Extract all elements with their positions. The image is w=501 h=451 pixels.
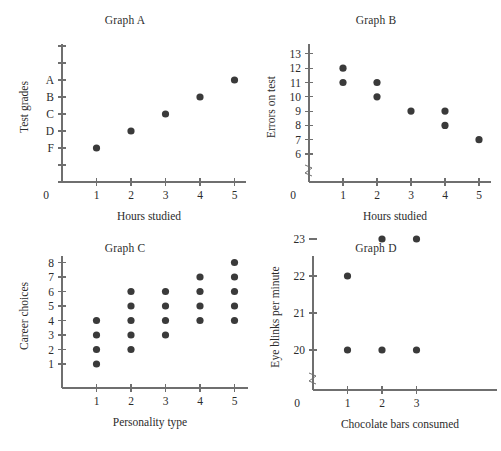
y-axis-title-graph-a: Test grades: [18, 81, 31, 133]
y-tick-label-6: 6: [295, 148, 301, 160]
data-point: [93, 317, 100, 324]
data-point: [231, 302, 238, 309]
y-tick-label-23: 23: [294, 233, 306, 245]
data-point: [93, 346, 100, 353]
data-point: [378, 346, 385, 353]
y-tick-label-5: 5: [48, 300, 54, 312]
data-point: [162, 331, 169, 338]
data-point: [162, 110, 169, 117]
x-tick-label-3: 3: [408, 189, 414, 201]
data-point: [127, 127, 134, 134]
y-tick-label-7: 7: [48, 271, 54, 283]
x-tick-label-3: 3: [163, 395, 169, 407]
x-tick-label-5: 5: [476, 189, 482, 201]
y-tick-label-21: 21: [294, 307, 306, 319]
y-tick-label-11: 11: [290, 77, 301, 89]
y-tick-label-a: A: [46, 74, 55, 86]
data-point: [413, 235, 420, 242]
data-point: [162, 302, 169, 309]
x-origin-label: 0: [43, 189, 49, 201]
data-point: [373, 93, 380, 100]
x-tick-label-2: 2: [379, 397, 385, 409]
panel-graph-c: Graph C 1234567812345Personality typeCar…: [0, 228, 250, 451]
data-point: [127, 346, 134, 353]
plot-area-graph-d: 202122231230Chocolate bars consumedEye b…: [251, 228, 501, 451]
y-tick-label-13: 13: [290, 48, 302, 60]
y-tick-label-1: 1: [48, 358, 54, 370]
data-point: [231, 76, 238, 83]
data-point: [373, 79, 380, 86]
data-point: [231, 317, 238, 324]
data-point: [93, 360, 100, 367]
data-point: [378, 235, 385, 242]
data-point: [441, 122, 448, 129]
y-tick-label-9: 9: [295, 105, 301, 117]
y-tick-label-8: 8: [295, 119, 301, 131]
plot-area-graph-a: ABCDF123450Hours studiedTest grades: [0, 0, 250, 225]
data-point: [127, 288, 134, 295]
y-axis-break-icon: [309, 373, 316, 384]
data-point: [231, 273, 238, 280]
x-tick-label-5: 5: [232, 395, 238, 407]
data-point: [475, 136, 482, 143]
data-point: [413, 346, 420, 353]
scatterplot-figure: Graph A ABCDF123450Hours studiedTest gra…: [0, 0, 501, 451]
data-point: [407, 108, 414, 115]
x-tick-label-4: 4: [197, 189, 203, 201]
data-point: [127, 302, 134, 309]
x-origin-label: 0: [290, 189, 296, 201]
y-axis-title-graph-c: Career choices: [18, 281, 30, 350]
data-point: [231, 288, 238, 295]
y-tick-label-8: 8: [48, 257, 54, 269]
panel-graph-b: Graph B 678910111213123450Hours studiedE…: [251, 0, 501, 225]
data-point: [441, 108, 448, 115]
x-tick-label-4: 4: [197, 395, 203, 407]
y-tick-label-6: 6: [48, 286, 54, 298]
x-tick-label-1: 1: [94, 189, 100, 201]
x-tick-label-2: 2: [128, 395, 134, 407]
y-tick-label-10: 10: [290, 91, 302, 103]
x-axis-title-graph-a: Hours studied: [117, 210, 181, 222]
y-tick-label-22: 22: [294, 270, 306, 282]
y-axis-title-graph-d: Eye blinks per minute: [269, 266, 282, 367]
y-tick-label-12: 12: [290, 62, 302, 74]
y-tick-label-d: D: [46, 125, 54, 137]
y-tick-label-f: F: [48, 142, 54, 154]
x-tick-label-5: 5: [232, 189, 238, 201]
x-origin-label: 0: [294, 397, 300, 409]
data-point: [93, 331, 100, 338]
x-tick-label-3: 3: [163, 189, 169, 201]
x-axis-title-graph-d: Chocolate bars consumed: [341, 418, 459, 430]
data-point: [162, 288, 169, 295]
y-tick-label-20: 20: [294, 344, 306, 356]
y-tick-label-c: C: [46, 108, 54, 120]
panel-graph-d: Graph D 202122231230Chocolate bars consu…: [251, 228, 501, 451]
data-point: [196, 93, 203, 100]
plot-area-graph-c: 1234567812345Personality typeCareer choi…: [0, 228, 250, 451]
x-tick-label-1: 1: [345, 397, 351, 409]
x-tick-label-4: 4: [442, 189, 448, 201]
x-tick-label-2: 2: [374, 189, 380, 201]
data-point: [196, 302, 203, 309]
data-point: [196, 273, 203, 280]
plot-area-graph-b: 678910111213123450Hours studiedErrors on…: [251, 0, 501, 225]
data-point: [339, 65, 346, 72]
x-tick-label-3: 3: [414, 397, 420, 409]
data-point: [231, 259, 238, 266]
panel-graph-a: Graph A ABCDF123450Hours studiedTest gra…: [0, 0, 250, 225]
data-point: [127, 317, 134, 324]
y-axis-break-icon: [305, 165, 312, 176]
y-tick-label-7: 7: [295, 134, 301, 146]
data-point: [339, 79, 346, 86]
x-axis-title-graph-c: Personality type: [113, 416, 187, 429]
y-tick-label-b: B: [46, 91, 54, 103]
data-point: [93, 144, 100, 151]
data-point: [127, 331, 134, 338]
data-point: [196, 288, 203, 295]
data-point: [196, 317, 203, 324]
x-tick-label-2: 2: [128, 189, 134, 201]
y-tick-label-2: 2: [48, 344, 54, 356]
y-axis-title-graph-b: Errors on test: [265, 75, 277, 138]
data-point: [344, 346, 351, 353]
y-tick-label-3: 3: [48, 329, 54, 341]
